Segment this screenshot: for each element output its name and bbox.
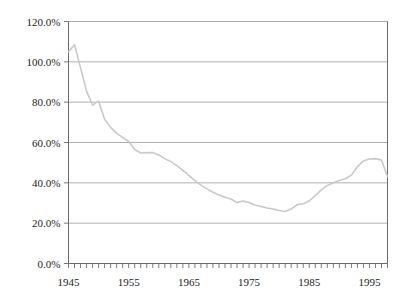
x-axis-label-1945: 1945: [58, 276, 81, 288]
gridlines: [69, 22, 388, 264]
y-axis-label-40.0%: 40.0%: [32, 177, 60, 189]
y-axis-label-80.0%: 80.0%: [32, 96, 60, 108]
x-axis-tick-labels: 194519551965197519851995: [58, 276, 381, 288]
x-axis-label-1955: 1955: [118, 276, 141, 288]
y-axis-label-120.0%: 120.0%: [27, 16, 61, 28]
x-axis-label-1965: 1965: [178, 276, 201, 288]
y-axis-label-100.0%: 100.0%: [27, 56, 61, 68]
x-axis-label-1995: 1995: [358, 276, 381, 288]
chart-page: 0.0%20.0%40.0%60.0%80.0%100.0%120.0% 194…: [0, 0, 414, 305]
line-chart: 0.0%20.0%40.0%60.0%80.0%100.0%120.0% 194…: [0, 0, 414, 305]
y-axis-label-0.0%: 0.0%: [38, 258, 61, 270]
data-series-line: [69, 45, 388, 212]
chart-svg: 0.0%20.0%40.0%60.0%80.0%100.0%120.0% 194…: [0, 0, 414, 305]
x-axis-label-1975: 1975: [238, 276, 261, 288]
y-axis-tick-labels: 0.0%20.0%40.0%60.0%80.0%100.0%120.0%: [27, 16, 61, 270]
x-axis-minor-ticks: [69, 264, 388, 269]
x-axis-label-1985: 1985: [298, 276, 321, 288]
y-axis-tick-marks: [64, 22, 69, 264]
y-axis-label-20.0%: 20.0%: [32, 217, 60, 229]
series-line-path: [69, 45, 388, 212]
y-axis-label-60.0%: 60.0%: [32, 137, 60, 149]
